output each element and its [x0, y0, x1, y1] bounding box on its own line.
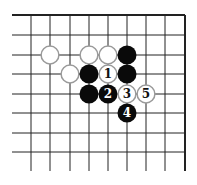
- white-stone-move-1: 1: [99, 65, 117, 83]
- move-number-label: 5: [142, 87, 150, 101]
- black-stone-icon: [118, 65, 137, 84]
- white-stone-icon: [41, 46, 59, 64]
- stones-layer: 12354: [41, 46, 155, 123]
- go-board: 12354: [0, 0, 197, 185]
- black-stone-move-4: 4: [118, 104, 137, 123]
- white-stone-move-5: 5: [137, 85, 155, 103]
- move-number-label: 1: [104, 67, 112, 81]
- move-number-label: 2: [104, 87, 112, 101]
- black-stone: [80, 85, 99, 104]
- white-stone-move-3: 3: [118, 85, 136, 103]
- black-stone-icon: [80, 65, 99, 84]
- black-stone: [80, 65, 99, 84]
- white-stone: [61, 65, 79, 83]
- white-stone-icon: [80, 46, 98, 64]
- white-stone: [99, 46, 117, 64]
- move-number-label: 3: [123, 87, 131, 101]
- white-stone: [41, 46, 59, 64]
- black-stone-move-2: 2: [99, 85, 118, 104]
- white-stone-icon: [61, 65, 79, 83]
- black-stone-icon: [80, 85, 99, 104]
- move-number-label: 4: [123, 106, 131, 120]
- board-grid: [12, 15, 185, 171]
- black-stone: [118, 65, 137, 84]
- white-stone-icon: [99, 46, 117, 64]
- black-stone-icon: [118, 46, 137, 65]
- black-stone: [118, 46, 137, 65]
- white-stone: [80, 46, 98, 64]
